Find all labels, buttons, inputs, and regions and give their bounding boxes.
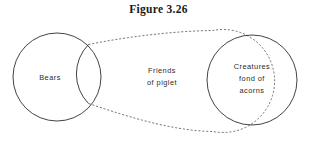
acorn-lovers-set-label-line-2: fond of	[239, 74, 265, 83]
acorn-lovers-set-label-line-3: acorns	[240, 86, 265, 95]
acorn-lovers-set-label-line-1: Creatures	[234, 62, 271, 71]
piglet-friends-set-label-line-1: Friends	[148, 66, 176, 75]
bears-piglet-lens-arc	[76, 45, 88, 104]
figure-container: Figure 3.26 Bears Friends of piglet Crea…	[0, 0, 317, 148]
bears-set-label: Bears	[39, 73, 61, 82]
piglet-friends-set-label-line-2: of piglet	[147, 78, 177, 87]
venn-diagram: Bears Friends of piglet Creatures fond o…	[0, 0, 317, 148]
